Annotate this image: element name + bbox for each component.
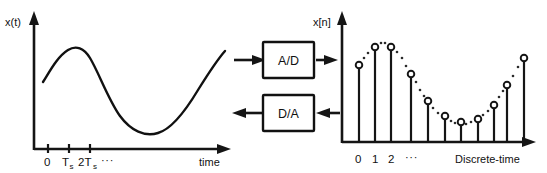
- sampling-diagram-svg: x(t) time 0 T s 2T s ···: [0, 0, 547, 173]
- ad-box-label: A/D: [278, 54, 299, 68]
- left-tick-label-0: 0: [44, 156, 50, 168]
- left-tick-label-0-base: 0: [44, 156, 50, 168]
- left-x-axis: [34, 144, 231, 154]
- stem-n1: [372, 44, 379, 142]
- stem-n5: [442, 113, 449, 142]
- right-y-axis: [337, 11, 347, 143]
- stem-series: [356, 44, 528, 142]
- left-tick-label-2ts-sub: s: [93, 162, 97, 171]
- left-tick-label-2ts: 2T s: [78, 156, 97, 171]
- right-tick-label-1: 1: [372, 153, 378, 165]
- left-tick-ellipsis: ···: [101, 154, 114, 166]
- da-input-arrowhead: [316, 108, 330, 118]
- right-plot-group: x[n] Discrete-time 0 1 2 ···: [313, 11, 536, 165]
- left-tick-label-2ts-base: 2T: [78, 156, 91, 168]
- da-converter[interactable]: D/A: [232, 95, 340, 131]
- da-output-arrowhead: [232, 108, 246, 118]
- stem-n6: [458, 119, 465, 142]
- left-plot-group: x(t) time 0 T s 2T s ···: [5, 11, 231, 171]
- left-tick-label-ts-base: T: [62, 156, 69, 168]
- stem-n2: [388, 44, 395, 142]
- right-y-axis-label: x[n]: [313, 16, 331, 28]
- stem-n7: [475, 116, 482, 142]
- stem-n10: [521, 55, 528, 142]
- envelope-dots: [363, 42, 520, 126]
- left-x-axis-label: time: [199, 156, 220, 168]
- figure-root: x(t) time 0 T s 2T s ···: [0, 0, 547, 173]
- right-tick-label-2: 2: [388, 153, 394, 165]
- right-tick-label-0: 0: [355, 153, 361, 165]
- right-y-axis-arrowhead: [337, 11, 347, 25]
- stem-n8: [491, 102, 498, 142]
- left-tick-label-ts: T s: [62, 156, 74, 171]
- left-y-axis-arrowhead: [29, 11, 39, 25]
- left-y-axis-label: x(t): [5, 16, 21, 28]
- stem-n9: [504, 82, 511, 142]
- ad-output-arrowhead: [324, 55, 338, 65]
- left-y-axis: [29, 11, 39, 150]
- right-x-axis-label: Discrete-time: [455, 153, 520, 165]
- left-tick-label-ts-sub: s: [70, 162, 74, 171]
- continuous-signal-curve: [43, 48, 225, 135]
- left-x-axis-arrowhead: [217, 144, 231, 154]
- converter-group: A/D D/A: [232, 42, 340, 131]
- stem-n3: [408, 71, 415, 142]
- da-box-label: D/A: [278, 107, 300, 121]
- stem-n4: [425, 98, 432, 142]
- ad-converter[interactable]: A/D: [234, 42, 338, 78]
- stem-n0: [356, 62, 363, 142]
- right-tick-ellipsis: ···: [405, 151, 418, 163]
